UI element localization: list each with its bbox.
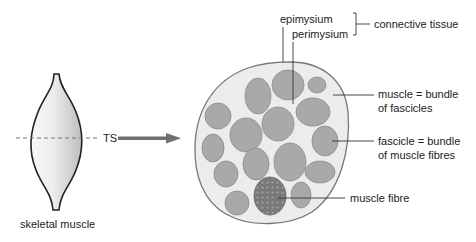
fascicle bbox=[230, 118, 262, 152]
fascicle-label-line2: of muscle fibres bbox=[378, 149, 456, 161]
ts-label: TS bbox=[103, 132, 117, 144]
muscle-structure-diagram: TS skeletal muscle bbox=[0, 0, 476, 242]
fascicle-with-fibres bbox=[254, 177, 286, 215]
muscle-cross-section bbox=[195, 62, 349, 224]
muscle-label-line2: of fascicles bbox=[378, 102, 433, 114]
fascicle bbox=[308, 77, 326, 93]
muscle-label-line1: muscle = bundle bbox=[378, 88, 458, 100]
fascicle bbox=[291, 182, 311, 208]
connective-tissue-label: connective tissue bbox=[374, 18, 458, 30]
muscle-fibre-label: muscle fibre bbox=[350, 192, 409, 204]
fascicle bbox=[243, 148, 269, 180]
arrow-icon bbox=[118, 133, 181, 144]
fascicle bbox=[296, 98, 330, 126]
fascicle-label-line1: fascicle = bundle bbox=[378, 135, 460, 147]
fascicle bbox=[205, 103, 231, 129]
fascicle bbox=[262, 107, 294, 141]
fascicle bbox=[202, 134, 224, 162]
fascicle bbox=[272, 70, 304, 100]
fascicle bbox=[305, 161, 335, 183]
fascicle bbox=[225, 191, 249, 215]
perimysium-label: perimysium bbox=[292, 28, 348, 40]
fascicle bbox=[274, 143, 306, 181]
skeletal-muscle-caption: skeletal muscle bbox=[20, 218, 95, 230]
epimysium-label: epimysium bbox=[280, 13, 333, 25]
fascicle bbox=[245, 78, 271, 114]
skeletal-muscle-shape bbox=[31, 74, 82, 210]
fascicle bbox=[214, 161, 238, 187]
